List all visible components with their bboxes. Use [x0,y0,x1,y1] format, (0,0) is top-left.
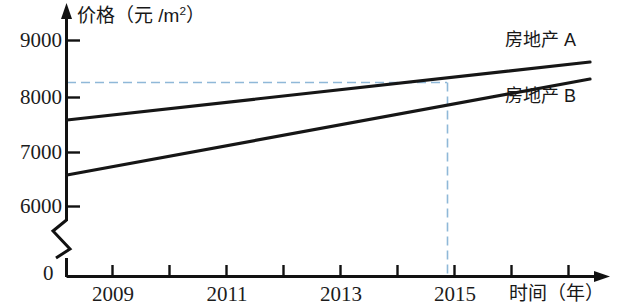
y-tick-label-7000: 7000 [0,142,62,163]
series-label-a: 房地产 A [505,31,576,49]
y-tick-label-6000: 6000 [0,196,62,217]
x-axis-arrow-icon [594,271,610,282]
y-axis-title: 价格（元 /m2） [77,5,205,25]
origin-label: 0 [43,263,54,284]
y-axis-break-icon [53,220,70,258]
x-tick-label-2009: 2009 [72,284,154,305]
x-tick-label-2011: 2011 [186,284,268,305]
series-label-b: 房地产 B [505,87,576,105]
x-axis-title: 时间（年） [509,284,604,303]
intersection-guides [67,83,448,277]
y-tick-label-9000: 9000 [0,30,62,51]
x-axis [67,265,611,282]
series-lines [67,62,590,175]
y-tick-label-8000: 8000 [0,87,62,108]
y-axis-title-tail: ） [186,5,205,26]
x-tick-label-2015: 2015 [414,284,496,305]
y-axis-title-main: 价格（元 /m [77,5,179,26]
x-tick-label-2013: 2013 [300,284,382,305]
price-line-chart: 价格（元 /m2） 9000 8000 7000 6000 0 2009 201… [0,0,617,305]
y-axis-arrow-icon [61,3,72,19]
